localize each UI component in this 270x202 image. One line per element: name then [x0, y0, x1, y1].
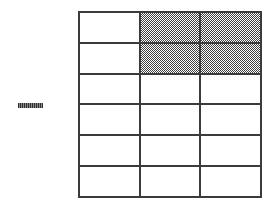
grid-cell-r6c3[interactable]: [200, 166, 261, 197]
grid-row: [79, 135, 261, 166]
grid-cell-r6c2[interactable]: [140, 166, 200, 197]
grid-cell-r2c1[interactable]: [79, 43, 140, 74]
shaded-grid: [78, 11, 262, 198]
grid-body: [79, 12, 261, 197]
grid-cell-r1c3[interactable]: [200, 12, 261, 43]
grid-cell-r1c2[interactable]: [140, 12, 200, 43]
grid-cell-r4c2[interactable]: [140, 104, 200, 135]
grid-row: [79, 166, 261, 197]
grid-cell-r2c2[interactable]: [140, 43, 200, 74]
grid-cell-r3c1[interactable]: [79, 74, 140, 105]
grid-cell-r5c3[interactable]: [200, 135, 261, 166]
grid-cell-r2c3[interactable]: [200, 43, 261, 74]
grid-cell-r3c3[interactable]: [200, 74, 261, 105]
grid-cell-r4c1[interactable]: [79, 104, 140, 135]
dash-mark-icon: [18, 103, 43, 108]
grid-cell-r1c1[interactable]: [79, 12, 140, 43]
grid-cell-r3c2[interactable]: [140, 74, 200, 105]
grid-cell-r5c2[interactable]: [140, 135, 200, 166]
grid-row: [79, 74, 261, 105]
grid-cell-r6c1[interactable]: [79, 166, 140, 197]
grid-row: [79, 104, 261, 135]
grid-cell-r5c1[interactable]: [79, 135, 140, 166]
grid-row: [79, 43, 261, 74]
figure-root: [0, 0, 270, 202]
grid-row: [79, 12, 261, 43]
grid-cell-r4c3[interactable]: [200, 104, 261, 135]
